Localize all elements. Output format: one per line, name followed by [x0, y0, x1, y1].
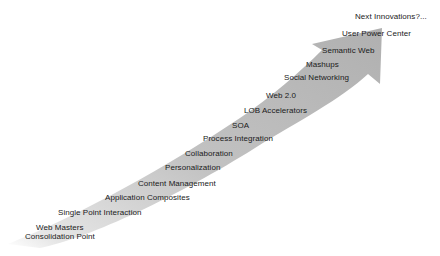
milestone-label-single-point-interaction: Single Point Interaction [58, 208, 141, 217]
milestone-label-content-management: Content Management [138, 179, 216, 188]
milestone-label-web-masters: Web Masters [36, 223, 84, 232]
milestone-label-web-2-0: Web 2.0 [266, 91, 296, 100]
milestone-label-next-innovations: Next Innovations?... [355, 12, 427, 21]
milestone-label-user-power-center: User Power Center [342, 29, 411, 38]
progress-arrow [0, 0, 440, 256]
milestone-label-consolidation-point: Consolidation Point [25, 232, 95, 241]
milestone-label-social-networking: Social Networking [284, 73, 349, 82]
milestone-label-lob-accelerators: LOB Accelerators [244, 106, 307, 115]
milestone-label-soa: SOA [232, 121, 249, 130]
milestone-label-personalization: Personalization [165, 163, 220, 172]
milestone-label-application-composites: Application Composites [105, 193, 190, 202]
milestone-label-collaboration: Collaboration [185, 149, 233, 158]
milestone-label-mashups: Mashups [306, 60, 339, 69]
milestone-label-process-integration: Process Integration [203, 134, 273, 143]
milestone-label-semantic-web: Semantic Web [322, 46, 374, 55]
